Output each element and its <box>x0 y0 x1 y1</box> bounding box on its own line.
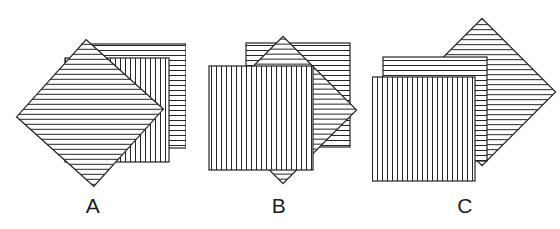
panel-b-canvas <box>186 0 372 200</box>
panel-b: B <box>186 0 372 229</box>
square-vertical-front <box>209 66 313 170</box>
square-vertical-front <box>372 77 475 181</box>
panel-c-canvas <box>372 0 558 200</box>
panel-c: C <box>372 0 558 229</box>
panel-a: A <box>0 0 186 229</box>
panel-b-label: B <box>186 192 372 220</box>
panel-a-canvas <box>0 0 186 200</box>
panel-c-label: C <box>372 192 558 220</box>
figure-root: A <box>0 0 560 229</box>
panel-a-label: A <box>0 192 186 220</box>
